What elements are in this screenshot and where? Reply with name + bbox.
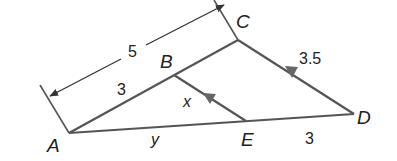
extension-line-c bbox=[214, 0, 238, 40]
label-ab-length: 3 bbox=[117, 81, 126, 98]
label-ed-length: 3 bbox=[305, 130, 314, 147]
label-ac-length: 5 bbox=[128, 43, 137, 60]
dimension-line-lower bbox=[50, 59, 121, 96]
label-ae-y: y bbox=[150, 131, 160, 148]
point-label-d: D bbox=[357, 107, 371, 128]
point-label-a: A bbox=[46, 135, 60, 156]
label-cd-length: 3.5 bbox=[299, 50, 321, 67]
point-label-e: E bbox=[241, 129, 254, 150]
parallel-arrow-icon-be bbox=[203, 93, 216, 104]
segment-ac bbox=[69, 40, 238, 133]
dimension-line-upper bbox=[146, 5, 224, 45]
point-label-b: B bbox=[160, 51, 173, 72]
point-label-c: C bbox=[236, 11, 250, 32]
label-be-x: x bbox=[182, 93, 192, 110]
triangle-diagram: A B C D E 5 3 3.5 x y 3 bbox=[0, 0, 397, 161]
segment-cd bbox=[238, 40, 354, 114]
extension-line-a bbox=[40, 85, 69, 133]
